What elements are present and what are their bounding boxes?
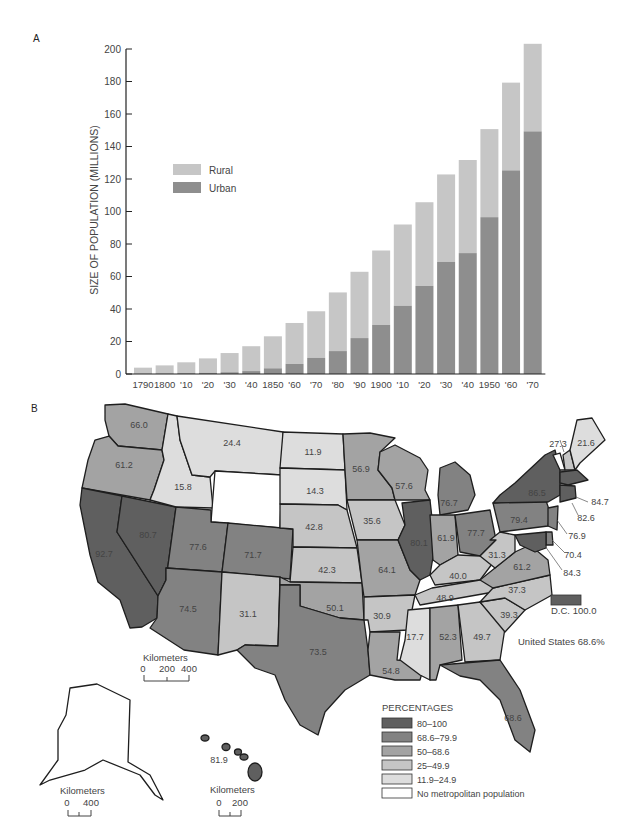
state-WY bbox=[211, 471, 282, 528]
label-MD: 84.3 bbox=[563, 568, 581, 578]
label-NC: 37.3 bbox=[508, 585, 526, 595]
x-tick-label: '60 bbox=[505, 379, 517, 390]
map-legend: PERCENTAGES 80–10068.6–79.950–68.625–49.… bbox=[382, 702, 525, 799]
legend-swatch bbox=[382, 746, 412, 756]
y-tick-label: 140 bbox=[104, 141, 121, 152]
bar-rural bbox=[134, 368, 152, 374]
label-WI: 57.6 bbox=[395, 481, 413, 491]
x-tick-label: 1950 bbox=[479, 379, 500, 390]
y-tick-label: 120 bbox=[104, 174, 121, 185]
label-OK: 50.1 bbox=[326, 603, 344, 613]
scale-main-tick-0: 0 bbox=[140, 663, 145, 674]
scale-hawaii-title: Kilometers bbox=[210, 784, 255, 795]
label-IL: 80.1 bbox=[410, 538, 428, 548]
bar-rural bbox=[286, 323, 304, 364]
y-tick-label: 100 bbox=[104, 206, 121, 217]
bar-rural bbox=[177, 362, 195, 373]
state-DE bbox=[546, 532, 553, 545]
state-NJ bbox=[548, 506, 558, 530]
y-tick-label: 60 bbox=[110, 271, 122, 282]
label-NJ: 76.9 bbox=[568, 531, 586, 541]
label-MO: 64.1 bbox=[378, 565, 396, 575]
label-HI: 81.9 bbox=[210, 755, 228, 765]
bar-urban bbox=[415, 286, 433, 374]
us-total-note: United States 68.6% bbox=[518, 636, 605, 647]
legend-swatch bbox=[382, 788, 412, 798]
bar-urban bbox=[459, 253, 477, 374]
legend-item-label: 80–100 bbox=[417, 719, 447, 729]
bar-rural bbox=[502, 83, 520, 171]
x-tick-label: '90 bbox=[353, 379, 365, 390]
bar-rural bbox=[221, 353, 239, 372]
state-MD bbox=[515, 532, 546, 552]
label-VA: 61.2 bbox=[513, 562, 531, 572]
x-tick-label: '10 bbox=[180, 379, 192, 390]
legend-label-urban: Urban bbox=[209, 183, 236, 194]
label-NV: 80.7 bbox=[139, 530, 157, 540]
scale-main-tick-2: 400 bbox=[181, 663, 197, 674]
legend-item-label: No metropolitan population bbox=[417, 789, 525, 799]
state-CT bbox=[560, 485, 576, 502]
legend-item-label: 50–68.6 bbox=[417, 747, 450, 757]
label-AZ: 74.5 bbox=[179, 604, 197, 614]
bar-urban bbox=[480, 217, 498, 374]
state-AK bbox=[40, 684, 163, 800]
bar-rural bbox=[264, 336, 282, 368]
y-tick-label: 180 bbox=[104, 76, 121, 87]
bar-rural bbox=[459, 160, 477, 253]
label-MN: 56.9 bbox=[352, 464, 370, 474]
x-tick-label: '70 bbox=[527, 379, 539, 390]
label-ID: 15.8 bbox=[174, 482, 192, 492]
bar-rural bbox=[351, 272, 369, 338]
bar-rural bbox=[372, 251, 390, 325]
x-tick-label: 1900 bbox=[371, 379, 392, 390]
map-legend-title: PERCENTAGES bbox=[382, 702, 453, 713]
bar-rural bbox=[156, 365, 174, 373]
chart-legend: Rural Urban bbox=[173, 164, 236, 194]
legend-swatch bbox=[382, 718, 412, 728]
scale-hawaii-tick-1: 200 bbox=[232, 797, 248, 808]
x-tick-label: 1850 bbox=[262, 379, 283, 390]
scale-main-title: Kilometers bbox=[143, 652, 188, 663]
bar-rural bbox=[524, 44, 542, 132]
x-tick-label: '30 bbox=[440, 379, 452, 390]
label-SC: 39.3 bbox=[500, 610, 518, 620]
scale-alaska-title: Kilometers bbox=[60, 785, 105, 796]
label-WA: 66.0 bbox=[130, 420, 148, 430]
bar-rural bbox=[242, 346, 260, 371]
label-AL: 52.3 bbox=[439, 632, 457, 642]
legend-label-rural: Rural bbox=[209, 165, 233, 176]
bar-rural bbox=[307, 311, 325, 358]
bar-rural bbox=[394, 225, 412, 306]
legend-swatch bbox=[382, 760, 412, 770]
legend-item-label: 68.6–79.9 bbox=[417, 733, 457, 743]
label-KY: 40.0 bbox=[449, 571, 467, 581]
label-DE: 70.4 bbox=[564, 550, 582, 560]
label-SD: 14.3 bbox=[306, 486, 324, 496]
x-tick-label: '60 bbox=[288, 379, 300, 390]
x-tick-label: '10 bbox=[397, 379, 409, 390]
dc-swatch bbox=[551, 595, 581, 605]
bar-urban bbox=[524, 131, 542, 374]
label-MI: 76.7 bbox=[440, 498, 458, 508]
metropolitan-population-map: D.C. 100.0 United States 68.6% 66.0 61.2… bbox=[0, 390, 631, 839]
y-tick-label: 160 bbox=[104, 109, 121, 120]
legend-swatch bbox=[382, 774, 412, 784]
bar-urban bbox=[437, 262, 455, 374]
label-PA: 79.4 bbox=[510, 515, 528, 525]
y-tick-label: 20 bbox=[110, 336, 122, 347]
label-LA: 54.8 bbox=[382, 666, 400, 676]
bar-urban bbox=[329, 351, 347, 374]
bar-urban bbox=[394, 306, 412, 374]
bar-urban bbox=[372, 325, 390, 374]
x-tick-label: '20 bbox=[202, 379, 214, 390]
bar-rural bbox=[415, 202, 433, 286]
x-tick-label: '80 bbox=[332, 379, 344, 390]
state-MA bbox=[560, 470, 588, 485]
y-axis-label: SIZE OF POPULATION (MILLIONS) bbox=[88, 125, 100, 295]
scale-main-tick-1: 200 bbox=[159, 663, 175, 674]
y-tick-label: 200 bbox=[104, 44, 121, 55]
label-TN: 48.9 bbox=[436, 593, 454, 603]
label-OH: 77.7 bbox=[467, 528, 485, 538]
label-IN: 61.9 bbox=[437, 533, 455, 543]
